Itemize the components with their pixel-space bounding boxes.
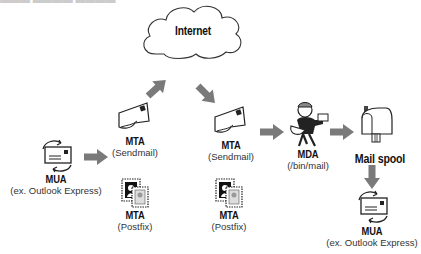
mailbox-icon (358, 104, 394, 142)
mta-sendmail-2-title: MTA (201, 139, 261, 151)
mta-sendmail-2-subtitle: (Sendmail) (196, 151, 266, 162)
mda-title: MDA (283, 148, 334, 160)
mail-client-icon (39, 139, 75, 173)
mta-postfix-1-title: MTA (105, 209, 165, 221)
envelope-hand-icon (117, 101, 151, 131)
mail-client-icon (355, 190, 391, 224)
mua-receiver-subtitle: (ex. Outlook Express) (316, 237, 421, 248)
mua-sender-subtitle: (ex. Outlook Express) (0, 185, 112, 196)
mua-receiver-title: MUA (324, 225, 419, 237)
postage-stamp-icon (120, 177, 150, 209)
mail-carrier-icon (287, 100, 331, 150)
mta-sendmail-1-title: MTA (105, 135, 165, 147)
mta-sendmail-1-subtitle: (Sendmail) (100, 147, 170, 158)
mta-postfix-2-title: MTA (199, 209, 259, 221)
postage-stamp-icon (214, 177, 244, 209)
mda-subtitle: (/bin/mail) (278, 160, 338, 171)
mail-spool-title: Mail spool (346, 152, 414, 166)
mta-postfix-1-subtitle: (Postfix) (100, 221, 170, 232)
mta-postfix-2-subtitle: (Postfix) (194, 221, 264, 232)
envelope-hand-icon (213, 105, 247, 135)
mua-sender-title: MUA (8, 173, 103, 185)
